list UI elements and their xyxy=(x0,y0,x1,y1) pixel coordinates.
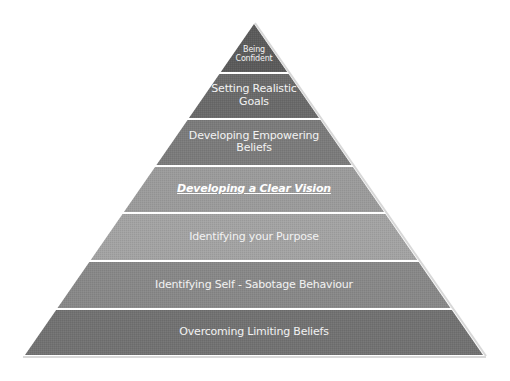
level-label-developing-empowering-beliefs: Developing Empowering Beliefs xyxy=(189,130,319,155)
level-label-line: Beliefs xyxy=(189,142,319,155)
level-label-line: Identifying your Purpose xyxy=(189,231,319,244)
level-label-identifying-self-sabotage-behaviour: Identifying Self - Sabotage Behaviour xyxy=(155,279,353,292)
level-label-line: Setting Realistic xyxy=(211,83,296,96)
level-label-being-confident: Being Confident xyxy=(236,45,273,63)
level-label-line: Being xyxy=(236,45,273,54)
level-label-line: Developing Empowering xyxy=(189,130,319,143)
level-label-overcoming-limiting-beliefs: Overcoming Limiting Beliefs xyxy=(179,326,328,339)
level-label-line: Overcoming Limiting Beliefs xyxy=(179,326,328,339)
level-label-line: Identifying Self - Sabotage Behaviour xyxy=(155,279,353,292)
level-label-identifying-your-purpose: Identifying your Purpose xyxy=(189,231,319,244)
pyramid-diagram: Being Confident Setting Realistic Goals … xyxy=(0,0,510,381)
level-label-line: Developing a Clear Vision xyxy=(177,183,331,196)
level-label-setting-realistic-goals: Setting Realistic Goals xyxy=(211,83,296,108)
level-label-line: Confident xyxy=(236,54,273,63)
level-label-developing-a-clear-vision: Developing a Clear Vision xyxy=(177,183,331,196)
level-label-line: Goals xyxy=(211,96,296,109)
